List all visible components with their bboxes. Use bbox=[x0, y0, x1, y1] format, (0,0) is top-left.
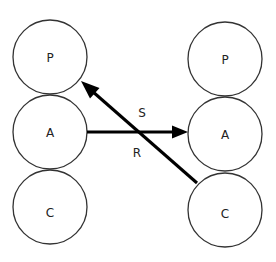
node-c-right-label: C bbox=[221, 207, 229, 221]
node-a-right: A bbox=[188, 97, 262, 171]
diagram-canvas: P A C P A C R S bbox=[0, 0, 276, 262]
node-c-right: C bbox=[188, 173, 262, 247]
node-a-left-label: A bbox=[46, 126, 55, 140]
edge-s-line bbox=[92, 91, 197, 183]
node-a-left: A bbox=[13, 95, 87, 169]
edge-r-label: R bbox=[133, 146, 141, 160]
left-column: P A C bbox=[13, 20, 87, 244]
node-p-left-label: P bbox=[46, 51, 53, 65]
edge-s-label: S bbox=[138, 106, 146, 120]
arrow-head-icon bbox=[172, 126, 188, 139]
node-p-right: P bbox=[188, 22, 262, 96]
node-c-left: C bbox=[13, 170, 87, 244]
node-p-right-label: P bbox=[221, 53, 228, 67]
node-a-right-label: A bbox=[221, 128, 230, 142]
right-column: P A C bbox=[188, 22, 262, 247]
node-p-left: P bbox=[13, 20, 87, 94]
node-c-left-label: C bbox=[46, 206, 54, 220]
